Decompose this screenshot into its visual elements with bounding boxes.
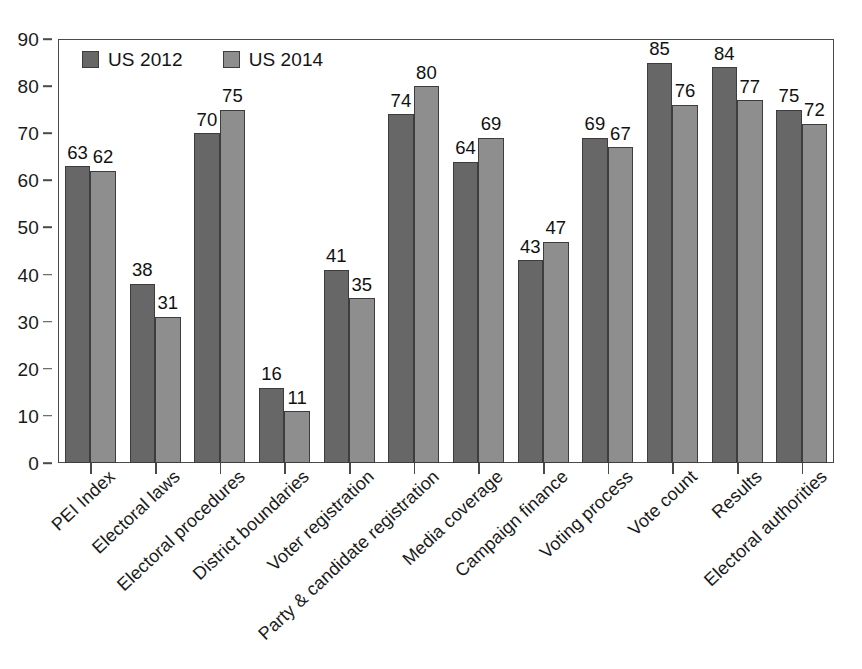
bar-group: 8477 <box>712 39 763 463</box>
y-tick-mark <box>43 85 52 87</box>
bar-group: 6967 <box>582 39 633 463</box>
y-tick-label: 20 <box>17 359 39 378</box>
bar <box>220 110 246 463</box>
bar <box>776 110 802 463</box>
bar-group: 4135 <box>324 39 375 463</box>
y-tick-mark <box>43 321 52 323</box>
y-tick-mark <box>43 415 52 417</box>
bar <box>712 67 738 463</box>
x-axis-category-labels: PEI IndexElectoral lawsElectoral procedu… <box>58 467 858 667</box>
bar-group: 7075 <box>194 39 245 463</box>
x-category-label: Vote count <box>625 467 700 539</box>
bar-group: 6469 <box>453 39 504 463</box>
y-tick-mark <box>43 132 52 134</box>
bar <box>737 100 763 463</box>
legend-label: US 2014 <box>249 50 324 69</box>
x-category-label: Electoral authorities <box>701 467 830 589</box>
x-category-label: Campaign finance <box>452 467 572 580</box>
y-tick-label: 70 <box>17 124 39 143</box>
x-category-label: District boundaries <box>190 467 313 583</box>
bar-chart: 0102030405060708090 63623831707516114135… <box>0 0 862 669</box>
y-tick-label: 30 <box>17 312 39 331</box>
bar <box>582 138 608 463</box>
bar-value-label: 80 <box>408 64 446 83</box>
y-tick-mark <box>43 180 52 182</box>
bar <box>284 411 310 463</box>
y-tick-mark <box>43 274 52 276</box>
bar-value-label: 85 <box>641 40 679 59</box>
bar-value-label: 31 <box>149 294 187 313</box>
legend-label: US 2012 <box>108 50 183 69</box>
y-tick-mark <box>43 227 52 229</box>
bar-value-label: 47 <box>537 219 575 238</box>
legend-item: US 2012 <box>82 50 183 69</box>
legend-item: US 2014 <box>223 50 324 69</box>
bar <box>194 133 220 463</box>
y-tick-mark <box>43 38 52 40</box>
bar-value-label: 35 <box>343 276 381 295</box>
chart-legend: US 2012US 2014 <box>82 50 323 69</box>
y-tick-label: 80 <box>17 77 39 96</box>
y-tick-label: 0 <box>28 454 39 473</box>
bar-group: 4347 <box>518 39 569 463</box>
bar <box>414 86 440 463</box>
bar-value-label: 41 <box>318 247 356 266</box>
bar-value-label: 38 <box>124 261 162 280</box>
bar-value-label: 16 <box>253 365 291 384</box>
bar-group: 7480 <box>388 39 439 463</box>
bar-value-label: 11 <box>278 389 316 408</box>
y-tick-label: 60 <box>17 171 39 190</box>
bar-group: 8576 <box>647 39 698 463</box>
bar <box>543 242 569 463</box>
bar <box>324 270 350 463</box>
y-tick-mark <box>43 462 52 464</box>
bar-value-label: 75 <box>214 87 252 106</box>
plot-area: 6362383170751611413574806469434769678576… <box>58 39 834 463</box>
y-tick-label: 50 <box>17 218 39 237</box>
bar <box>518 260 544 463</box>
bar-value-label: 62 <box>84 148 122 167</box>
y-tick-label: 90 <box>17 30 39 49</box>
bar <box>478 138 504 463</box>
bar-value-label: 77 <box>731 78 769 97</box>
y-tick-label: 10 <box>17 406 39 425</box>
bar-group: 3831 <box>130 39 181 463</box>
bar <box>608 147 634 463</box>
bar <box>802 124 828 463</box>
legend-swatch-icon <box>223 51 240 68</box>
y-tick-mark <box>43 368 52 370</box>
bar-group: 7572 <box>776 39 827 463</box>
x-category-label: Electoral procedures <box>113 467 247 594</box>
y-axis: 0102030405060708090 <box>0 39 52 463</box>
y-tick-label: 40 <box>17 265 39 284</box>
bar <box>349 298 375 463</box>
bar <box>388 114 414 463</box>
legend-swatch-icon <box>82 51 99 68</box>
bar <box>453 162 479 464</box>
bar-value-label: 67 <box>602 125 640 144</box>
bar-group: 6362 <box>65 39 116 463</box>
bar <box>672 105 698 463</box>
bar <box>647 63 673 463</box>
bar-group: 1611 <box>259 39 310 463</box>
bar <box>90 171 116 463</box>
bar-value-label: 69 <box>472 115 510 134</box>
bar <box>65 166 91 463</box>
bar <box>155 317 181 463</box>
x-category-label: Results <box>709 467 766 522</box>
bar-value-label: 76 <box>666 82 704 101</box>
bar-value-label: 72 <box>796 101 834 120</box>
bar-value-label: 84 <box>706 45 744 64</box>
